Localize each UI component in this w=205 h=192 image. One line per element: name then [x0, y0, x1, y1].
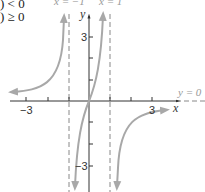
- asymptote-label-y-0: y = 0: [177, 86, 202, 98]
- y-tick-label-3: 3: [81, 31, 87, 43]
- rational-function-graph: x y −3 3 3 −3 x = −1 x = 1 y = 0: [0, 0, 205, 192]
- curve-left-branch: [13, 18, 64, 92]
- asymptote-label-x-1: x = 1: [98, 0, 122, 7]
- y-axis-label: y: [79, 7, 86, 21]
- x-tick-label-neg3: −3: [20, 104, 33, 116]
- asymptote-label-x-neg1: x = −1: [53, 0, 85, 7]
- y-tick-label-neg3: −3: [75, 160, 88, 172]
- x-tick-label-3: 3: [149, 104, 155, 116]
- x-axis-label: x: [172, 101, 179, 115]
- curve-right-branch: [117, 110, 165, 186]
